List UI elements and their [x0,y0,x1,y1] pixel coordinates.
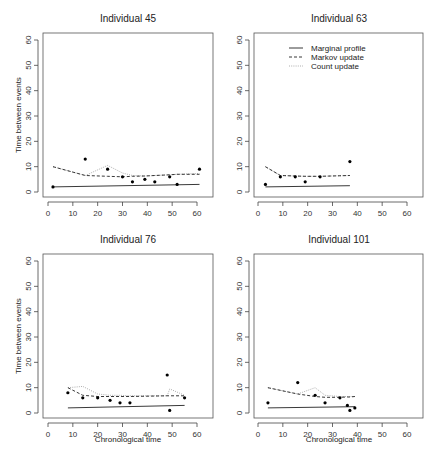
data-point [66,391,69,394]
count-update-line [68,386,185,395]
data-point [96,396,99,399]
data-point [84,157,87,160]
y-tick-label: 40 [24,307,33,316]
data-point [338,396,341,399]
data-point [106,168,109,171]
x-tick-label: 60 [403,209,412,218]
data-point [108,399,111,402]
y-tick-label: 60 [24,35,33,44]
y-tick-label: 60 [235,35,244,44]
x-axis-label-right: Chronological time [306,435,373,444]
x-tick-label: 50 [378,430,387,439]
data-point [166,373,169,376]
y-tick-label: 0 [24,189,33,194]
y-tick-label: 30 [24,111,33,120]
x-tick-label: 40 [353,209,362,218]
y-tick-label: 0 [235,189,244,194]
y-axis: 0102030405060 [24,256,38,415]
data-point [353,406,356,409]
data-point [153,180,156,183]
y-tick-label: 30 [24,332,33,341]
data-point [168,175,171,178]
y-tick-label: 0 [24,410,33,415]
data-point [121,175,124,178]
data-point [348,160,351,163]
marginal-profile-line [68,405,185,408]
data-point [176,183,179,186]
x-tick-label: 10 [68,430,77,439]
panel-title-101: Individual 101 [308,234,370,245]
data-point [279,175,282,178]
panel-title-45: Individual 45 [100,13,157,24]
marginal-profile-line [265,186,350,187]
y-tick-label: 10 [24,162,33,171]
y-tick-label: 60 [24,256,33,265]
y-tick-label: 10 [235,162,244,171]
x-tick-label: 20 [93,209,102,218]
legend-count-label: Count update [311,62,360,71]
panel-45: 01020304050600102030405060 [24,33,213,218]
x-tick-label: 50 [378,209,387,218]
y-tick-label: 40 [235,86,244,95]
y-axis-label-bottom: Time between events [14,298,23,374]
y-tick-label: 30 [235,332,244,341]
data-point [304,180,307,183]
y-tick-label: 0 [235,410,244,415]
panel-76: 01020304050600102030405060 [24,254,213,439]
y-axis-label-top: Time between events [14,77,23,153]
x-tick-label: 10 [68,209,77,218]
count-update-line [265,167,350,177]
data-point [118,401,121,404]
data-point [143,178,146,181]
data-point [294,175,297,178]
panel-title-76: Individual 76 [100,234,157,245]
panel-101: 01020304050600102030405060 [235,254,423,439]
x-axis: 0102030405060 [46,202,202,218]
legend: Marginal profile Markov update Count upd… [289,44,366,71]
x-tick-label: 10 [278,430,287,439]
data-point [318,175,321,178]
x-tick-label: 0 [256,430,261,439]
y-axis: 0102030405060 [235,35,249,194]
y-tick-label: 20 [24,136,33,145]
legend-marginal-label: Marginal profile [311,44,366,53]
y-tick-label: 30 [235,111,244,120]
x-tick-label: 30 [118,209,127,218]
y-tick-label: 50 [235,281,244,290]
data-point [81,396,84,399]
x-tick-label: 20 [303,209,312,218]
data-point [128,401,131,404]
marginal-profile-line [268,407,355,408]
data-point [183,396,186,399]
y-tick-label: 50 [24,60,33,69]
markov-update-line [265,167,350,177]
y-tick-label: 20 [24,357,33,366]
data-point [346,404,349,407]
legend-markov-label: Markov update [311,53,364,62]
data-point [131,180,134,183]
x-tick-label: 50 [168,209,177,218]
y-axis: 0102030405060 [235,256,249,415]
y-tick-label: 20 [235,357,244,366]
plot-frame [43,33,213,197]
x-tick-label: 50 [168,430,177,439]
figure: 0102030405060010203040506001020304050600… [0,0,439,461]
x-tick-label: 30 [328,209,337,218]
x-tick-label: 40 [143,209,152,218]
data-point [323,401,326,404]
data-point [168,409,171,412]
markov-update-line [53,167,200,177]
x-tick-label: 60 [403,430,412,439]
data-point [264,183,267,186]
plot-frame [254,254,423,418]
y-tick-label: 40 [235,307,244,316]
data-point [296,381,299,384]
y-tick-label: 50 [235,60,244,69]
data-point [314,394,317,397]
y-tick-label: 10 [24,383,33,392]
x-axis-label-left: Chronological time [95,435,162,444]
data-point [198,168,201,171]
x-tick-label: 0 [256,209,261,218]
x-tick-label: 60 [193,430,202,439]
y-axis: 0102030405060 [24,35,38,194]
